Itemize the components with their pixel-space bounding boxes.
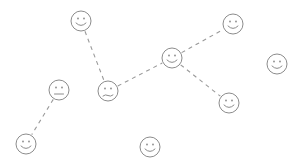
right-eye-icon: [279, 61, 281, 63]
face-outline: [140, 137, 160, 157]
face-outline: [71, 11, 91, 31]
left-eye-icon: [104, 88, 106, 90]
right-eye-icon: [231, 100, 233, 102]
right-eye-icon: [174, 55, 176, 57]
face-outline: [98, 81, 118, 101]
face-node-d: [162, 48, 182, 68]
face-node-a: [71, 11, 91, 31]
right-eye-icon: [28, 141, 30, 143]
right-eye-icon: [152, 144, 154, 146]
edge-c-d: [118, 63, 162, 86]
face-node-i: [140, 137, 160, 157]
face-node-c: [98, 81, 118, 101]
right-eye-icon: [110, 88, 112, 90]
face-outline: [267, 54, 287, 74]
edge-d-g: [181, 65, 221, 96]
face-outline: [219, 93, 239, 113]
right-eye-icon: [61, 87, 63, 89]
network-diagram: [0, 0, 303, 167]
face-node-e: [223, 14, 243, 34]
face-outline: [16, 134, 36, 154]
left-eye-icon: [168, 55, 170, 57]
face-node-b: [49, 80, 69, 100]
left-eye-icon: [55, 87, 57, 89]
right-eye-icon: [83, 18, 85, 20]
face-node-f: [267, 54, 287, 74]
left-eye-icon: [77, 18, 79, 20]
right-eye-icon: [235, 21, 237, 23]
left-eye-icon: [225, 100, 227, 102]
face-outline: [162, 48, 182, 68]
left-eye-icon: [229, 21, 231, 23]
left-eye-icon: [22, 141, 24, 143]
face-outline: [223, 14, 243, 34]
face-node-g: [219, 93, 239, 113]
edge-b-h: [32, 99, 54, 134]
left-eye-icon: [273, 61, 275, 63]
left-eye-icon: [146, 144, 148, 146]
nodes-layer: [16, 11, 287, 157]
face-node-h: [16, 134, 36, 154]
edge-a-c: [85, 31, 104, 80]
edge-d-e: [182, 29, 224, 52]
face-outline: [49, 80, 69, 100]
